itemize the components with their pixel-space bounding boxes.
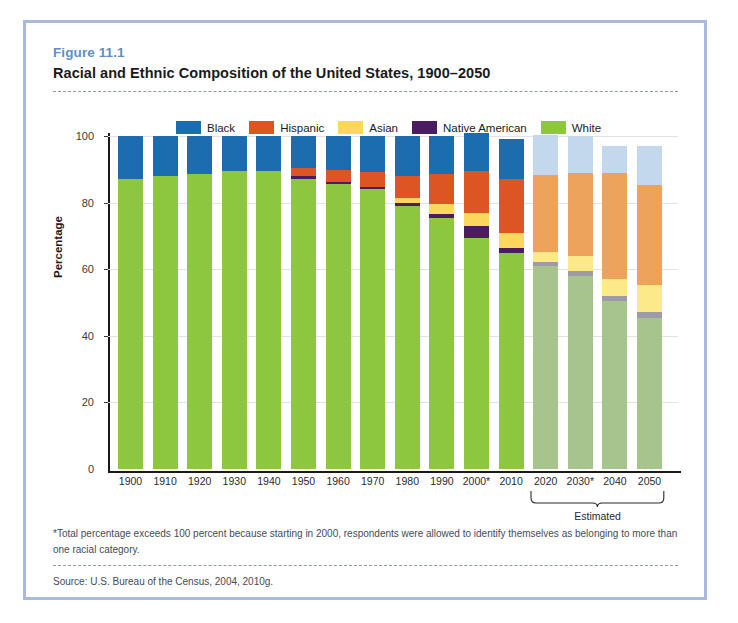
figure-frame: Figure 11.1 Racial and Ethnic Compositio… xyxy=(23,20,707,600)
bar-segment xyxy=(429,136,454,174)
bar-segment xyxy=(429,218,454,469)
bar-segment xyxy=(256,171,281,469)
bar-segment xyxy=(637,185,662,285)
bar-segment xyxy=(568,173,593,256)
bar-segment xyxy=(499,179,524,232)
y-tick-label: 20 xyxy=(68,396,94,408)
bar-segment xyxy=(637,318,662,470)
bar-segment xyxy=(568,136,593,173)
plot-area xyxy=(108,136,678,486)
legend-swatch-icon xyxy=(541,121,566,134)
bar-segment xyxy=(602,173,627,280)
bar-stack xyxy=(360,136,385,469)
bar-stack xyxy=(429,136,454,469)
bar-segment xyxy=(187,136,212,174)
legend-item: White xyxy=(541,121,601,134)
bar-segment xyxy=(637,146,662,185)
legend-item: Asian xyxy=(338,121,398,134)
bar-segment xyxy=(153,176,178,469)
bar-segment xyxy=(326,136,351,170)
bar-segment xyxy=(499,139,524,179)
legend-label: Black xyxy=(207,122,235,134)
bar-segment xyxy=(533,175,558,252)
bar-segment xyxy=(568,256,593,271)
bar-series-container xyxy=(108,136,678,469)
bar-segment xyxy=(395,206,420,469)
y-tick-label: 80 xyxy=(68,197,94,209)
bar-segment xyxy=(291,179,316,469)
bar-segment xyxy=(118,179,143,469)
y-axis-title: Percentage xyxy=(52,216,64,278)
y-axis-tick-labels: 020406080100 xyxy=(64,136,94,469)
bar-stack xyxy=(187,136,212,469)
bar-segment xyxy=(464,238,489,469)
bar-segment xyxy=(326,184,351,469)
y-tick-label: 100 xyxy=(68,130,94,142)
bar-stack xyxy=(568,136,593,469)
bar-stack xyxy=(153,136,178,469)
figure-inner: Figure 11.1 Racial and Ethnic Compositio… xyxy=(26,23,704,597)
bar-segment xyxy=(637,285,662,312)
bar-segment xyxy=(499,233,524,248)
bar-stack xyxy=(118,136,143,469)
bar-stack xyxy=(256,136,281,469)
legend-label: White xyxy=(572,122,601,134)
x-tick-label: 2050 xyxy=(627,475,673,487)
bar-segment xyxy=(222,136,247,171)
y-tick-label: 60 xyxy=(68,263,94,275)
bar-segment xyxy=(291,168,316,176)
bar-segment xyxy=(256,136,281,171)
bar-segment xyxy=(291,136,316,168)
bar-segment xyxy=(395,136,420,176)
bar-segment xyxy=(360,189,385,469)
bar-stack xyxy=(222,136,247,469)
figure-number: Figure 11.1 xyxy=(53,45,125,60)
bar-segment xyxy=(602,279,627,296)
bar-stack xyxy=(395,136,420,469)
bar-stack xyxy=(291,136,316,469)
legend-label: Native American xyxy=(443,122,527,134)
legend-swatch-icon xyxy=(412,121,437,134)
bar-segment xyxy=(153,136,178,176)
bar-segment xyxy=(499,253,524,469)
legend-item: Hispanic xyxy=(249,121,324,134)
legend-label: Hispanic xyxy=(280,122,324,134)
bar-segment xyxy=(429,204,454,214)
bar-segment xyxy=(602,146,627,173)
bar-segment xyxy=(326,170,351,182)
estimated-brace-icon xyxy=(530,491,665,507)
chart-legend: BlackHispanicAsianNative AmericanWhite xyxy=(176,121,601,134)
divider-bottom xyxy=(53,565,678,566)
legend-item: Black xyxy=(176,121,235,134)
bar-segment xyxy=(533,252,558,262)
bar-segment xyxy=(533,266,558,469)
figure-source: Source: U.S. Bureau of the Census, 2004,… xyxy=(53,576,678,587)
figure-footnote: *Total percentage exceeds 100 percent be… xyxy=(53,526,678,558)
bar-stack xyxy=(533,135,558,469)
bar-segment xyxy=(464,133,489,171)
bar-segment xyxy=(429,174,454,204)
legend-label: Asian xyxy=(369,122,398,134)
bar-segment xyxy=(360,136,385,172)
bar-segment xyxy=(222,171,247,469)
bar-stack xyxy=(464,133,489,469)
legend-swatch-icon xyxy=(249,121,274,134)
bar-segment xyxy=(118,136,143,179)
bar-segment xyxy=(464,226,489,238)
bar-stack xyxy=(326,136,351,469)
estimated-bracket-label: Estimated xyxy=(538,510,658,522)
bar-segment xyxy=(602,301,627,469)
bar-segment xyxy=(360,172,385,187)
bar-segment xyxy=(395,176,420,198)
bar-segment xyxy=(464,171,489,213)
y-tick-label: 40 xyxy=(68,330,94,342)
bar-stack xyxy=(637,146,662,469)
legend-swatch-icon xyxy=(338,121,363,134)
bar-stack xyxy=(602,146,627,469)
legend-swatch-icon xyxy=(176,121,201,134)
y-tick-label: 0 xyxy=(68,463,94,475)
figure-title: Racial and Ethnic Composition of the Uni… xyxy=(53,65,490,81)
bar-segment xyxy=(568,276,593,469)
bar-segment xyxy=(464,213,489,226)
bar-stack xyxy=(499,139,524,469)
